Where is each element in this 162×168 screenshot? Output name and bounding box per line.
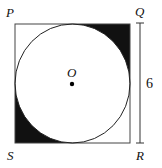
side-length-label: 6: [146, 76, 153, 91]
vertex-label-r: R: [135, 148, 144, 163]
center-label-o: O: [67, 65, 77, 80]
shaded-region-top-right: [72, 24, 130, 84]
vertex-label-p: P: [5, 5, 14, 20]
center-point: [70, 82, 74, 86]
vertex-label-s: S: [7, 148, 14, 163]
shaded-region-bottom-left: [15, 84, 72, 143]
geometry-diagram: P Q R S O 6: [0, 0, 162, 168]
dimension-line: [136, 23, 144, 143]
vertex-label-q: Q: [135, 4, 145, 19]
